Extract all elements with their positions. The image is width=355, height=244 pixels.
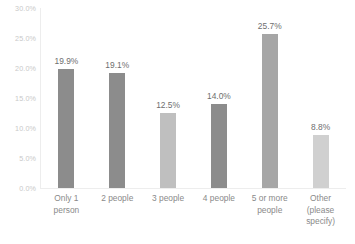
bar-value-label: 8.8% — [311, 122, 330, 132]
bar-group: 8.8% — [295, 8, 346, 188]
bar-group: 12.5% — [143, 8, 194, 188]
y-axis-tick-label: 15.0% — [15, 94, 36, 103]
bar-value-label: 25.7% — [258, 21, 282, 31]
bar — [262, 34, 278, 188]
bar-group: 14.0% — [194, 8, 245, 188]
bar-value-label: 19.9% — [55, 56, 79, 66]
plot-area: 19.9%19.1%12.5%14.0%25.7%8.8% — [41, 8, 346, 188]
y-axis-tick-label: 30.0% — [15, 4, 36, 13]
bar-group: 25.7% — [244, 8, 295, 188]
x-axis-category-label: 3 people — [143, 193, 194, 205]
y-axis: 30.0%25.0%20.0%15.0%10.0%5.0%0.0% — [0, 0, 40, 190]
x-axis-category-label: Only 1 person — [41, 193, 92, 216]
bar — [211, 104, 227, 188]
x-axis: Only 1 person2 people3 people4 people5 o… — [41, 193, 346, 243]
bar-value-label: 19.1% — [105, 60, 129, 70]
bar-chart: 30.0%25.0%20.0%15.0%10.0%5.0%0.0% 19.9%1… — [0, 0, 355, 244]
bar-group: 19.9% — [41, 8, 92, 188]
bar-group: 19.1% — [92, 8, 143, 188]
x-axis-category-label: 2 people — [92, 193, 143, 205]
x-axis-category-label: Other (please specify) — [295, 193, 346, 228]
bar — [58, 69, 74, 188]
y-axis-tick-label: 25.0% — [15, 34, 36, 43]
y-axis-tick-label: 5.0% — [19, 154, 36, 163]
y-axis-tick-label: 0.0% — [19, 184, 36, 193]
bar — [313, 135, 329, 188]
x-axis-category-label: 5 or more people — [244, 193, 295, 216]
y-axis-tick-label: 20.0% — [15, 64, 36, 73]
x-axis-line — [40, 188, 346, 189]
y-axis-tick-label: 10.0% — [15, 124, 36, 133]
bar-value-label: 12.5% — [156, 100, 180, 110]
bar-value-label: 14.0% — [207, 91, 231, 101]
bar — [109, 73, 125, 188]
x-axis-category-label: 4 people — [194, 193, 245, 205]
bar — [160, 113, 176, 188]
